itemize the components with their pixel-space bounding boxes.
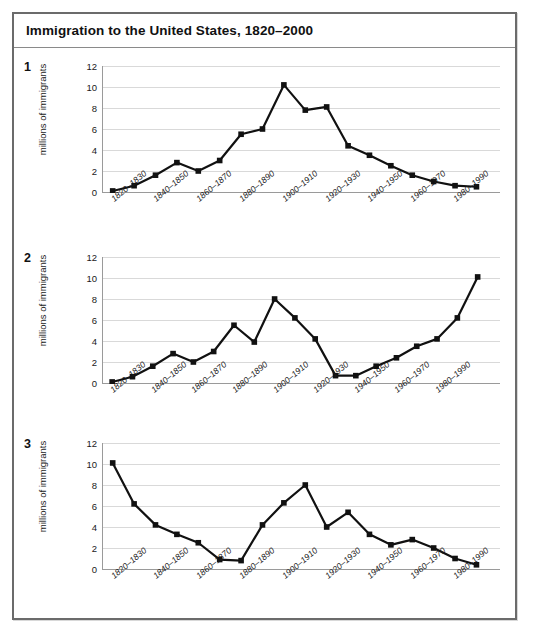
data-point-marker — [195, 540, 201, 546]
data-point-marker — [131, 501, 137, 507]
y-axis-tick-label: 8 — [92, 294, 97, 305]
data-point-marker — [414, 343, 420, 349]
data-point-marker — [252, 339, 258, 345]
y-axis-tick-label: 6 — [92, 501, 97, 512]
y-axis-tick-label: 10 — [86, 459, 97, 470]
data-point-marker — [153, 522, 159, 528]
data-point-marker — [434, 336, 440, 342]
data-point-marker — [388, 163, 394, 169]
x-axis-labels-3: 1820–18301840–18501860–18701880–18901900… — [102, 573, 502, 621]
x-axis-labels-1: 1820–18301840–18501860–18701880–18901900… — [102, 196, 502, 244]
data-point-marker — [324, 104, 330, 110]
data-point-marker — [475, 274, 481, 280]
series-line — [113, 85, 477, 191]
y-axis-tick-label: 2 — [92, 166, 97, 177]
data-point-marker — [260, 522, 266, 528]
y-axis-tick-label: 12 — [86, 252, 97, 263]
data-point-marker — [367, 152, 373, 158]
y-axis-tick-label: 10 — [86, 273, 97, 284]
y-axis-tick-label: 12 — [86, 61, 97, 72]
series-line — [113, 463, 477, 565]
data-point-marker — [388, 542, 394, 548]
data-point-marker — [217, 158, 223, 164]
y-axis-title: millions of immigrants — [37, 241, 48, 361]
data-point-marker — [110, 460, 116, 466]
chart-block-3: 3 millions of immigrants 024681012 1820–… — [14, 435, 515, 625]
data-point-marker — [153, 172, 159, 178]
data-point-marker — [195, 168, 201, 174]
figure-frame: Immigration to the United States, 1820–2… — [12, 12, 517, 620]
data-point-marker — [452, 556, 458, 562]
y-axis-tick-label: 10 — [86, 82, 97, 93]
data-point-marker — [191, 359, 197, 365]
y-axis-tick-label: 4 — [92, 522, 97, 533]
y-axis-tick-label: 2 — [92, 357, 97, 368]
data-point-marker — [455, 315, 461, 321]
data-point-marker — [345, 143, 351, 149]
chart-number-label: 1 — [24, 60, 31, 74]
data-point-marker — [231, 322, 237, 328]
chart-block-1: 1 millions of immigrants 024681012 1820–… — [14, 58, 515, 248]
y-axis-tick-label: 4 — [92, 145, 97, 156]
page-root: Immigration to the United States, 1820–2… — [0, 0, 533, 636]
y-axis-tick-label: 12 — [86, 438, 97, 449]
y-axis-tick-label: 2 — [92, 543, 97, 554]
data-point-marker — [211, 349, 217, 355]
data-point-marker — [367, 532, 373, 538]
data-point-marker — [238, 558, 244, 564]
page-title: Immigration to the United States, 1820–2… — [26, 23, 313, 38]
data-point-marker — [302, 482, 308, 488]
y-axis-tick-label: 0 — [92, 187, 97, 198]
y-axis-tick-label: 8 — [92, 103, 97, 114]
data-point-marker — [452, 183, 458, 189]
data-point-marker — [260, 126, 266, 132]
data-point-marker — [174, 532, 180, 538]
x-axis-labels-2: 1820–18301840–18501860–18701880–18901900… — [102, 387, 502, 435]
data-point-marker — [150, 363, 156, 369]
data-point-marker — [238, 131, 244, 137]
data-point-marker — [409, 172, 415, 178]
y-axis-title: millions of immigrants — [37, 427, 48, 547]
y-axis-tick-label: 0 — [92, 564, 97, 575]
chart-block-2: 2 millions of immigrants 024681012 1820–… — [14, 249, 515, 439]
chart-number-label: 3 — [24, 437, 31, 451]
chart-number-label: 2 — [24, 251, 31, 265]
data-point-marker — [174, 160, 180, 166]
data-point-marker — [272, 296, 278, 302]
data-point-marker — [353, 373, 359, 379]
data-point-marker — [281, 82, 287, 88]
data-point-marker — [409, 537, 415, 543]
y-axis-tick-label: 6 — [92, 124, 97, 135]
data-point-marker — [345, 510, 351, 516]
y-axis-tick-label: 0 — [92, 378, 97, 389]
data-point-marker — [281, 500, 287, 506]
data-point-marker — [292, 315, 298, 321]
data-point-marker — [394, 355, 400, 361]
data-point-marker — [312, 336, 318, 342]
y-axis-tick-label: 4 — [92, 336, 97, 347]
y-axis-tick-label: 6 — [92, 315, 97, 326]
data-point-marker — [302, 107, 308, 113]
data-point-marker — [170, 351, 176, 357]
data-point-marker — [324, 524, 330, 530]
title-divider — [14, 47, 515, 48]
y-axis-tick-label: 8 — [92, 480, 97, 491]
y-axis-title: millions of immigrants — [37, 50, 48, 170]
